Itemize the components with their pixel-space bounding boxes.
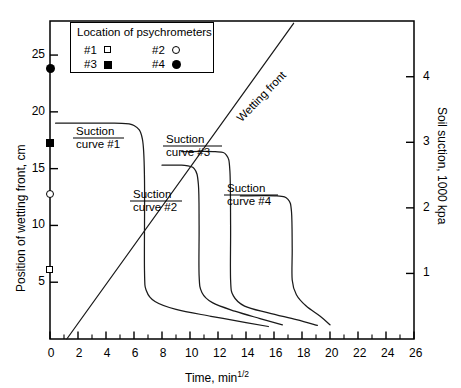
filled-circle-icon xyxy=(172,60,181,69)
y-tick-label-right: 4 xyxy=(423,69,430,83)
annotation-suction-curve-1-line1: Suction xyxy=(76,125,114,137)
annotation-suction-curve-1: Suction curve #1 xyxy=(76,125,120,151)
annotation-suction-curve-3-line2: curve #3 xyxy=(166,146,210,158)
annotation-suction-curve-2-line1: Suction xyxy=(133,188,171,200)
y-tick-label-left: 15 xyxy=(26,161,45,175)
psychrometer-marker-3 xyxy=(46,139,54,147)
x-tick-label: 14 xyxy=(241,346,253,360)
psychrometer-marker-2 xyxy=(46,190,54,198)
annotation-suction-curve-2-line2: curve #2 xyxy=(133,201,177,213)
x-tick-label: 8 xyxy=(157,346,169,360)
legend-item-4-label: #4 xyxy=(152,58,165,70)
annotation-suction-curve-4: Suction curve #4 xyxy=(227,182,271,208)
x-tick-label: 4 xyxy=(101,346,113,360)
x-tick-label: 18 xyxy=(297,346,309,360)
filled-square-icon xyxy=(104,61,112,69)
legend-item-1-label: #1 xyxy=(84,44,97,56)
y-tick-label-left: 5 xyxy=(26,274,45,288)
x-tick-label: 22 xyxy=(353,346,365,360)
x-tick-label: 2 xyxy=(73,346,85,360)
curve-suction-curve-3 xyxy=(182,151,318,325)
y-tick-label-left: 10 xyxy=(26,217,45,231)
x-tick-label: 16 xyxy=(269,346,281,360)
annotation-suction-curve-2: Suction curve #2 xyxy=(133,188,177,214)
x-tick-label: 6 xyxy=(129,346,141,360)
annotation-suction-curve-1-line2: curve #1 xyxy=(76,138,120,150)
y-axis-right-title: Soil suction, 1000 kpa xyxy=(435,107,449,224)
x-tick-label: 20 xyxy=(325,346,337,360)
psychrometer-marker-1 xyxy=(46,266,53,273)
curve-suction-curve-1 xyxy=(56,123,269,326)
annotation-suction-curve-3: Suction curve #3 xyxy=(166,133,210,159)
y-tick-label-right: 3 xyxy=(423,134,430,148)
x-tick-label: 10 xyxy=(185,346,197,360)
x-tick-label: 0 xyxy=(45,346,57,360)
x-axis-title-exponent: 1/2 xyxy=(237,369,249,379)
open-square-icon xyxy=(104,46,111,53)
annotation-suction-curve-4-line2: curve #4 xyxy=(227,195,271,207)
legend-item-2-label: #2 xyxy=(152,44,165,56)
x-axis-title-main: Time, min xyxy=(185,371,237,385)
y-tick-label-right: 2 xyxy=(423,200,430,214)
x-tick-label: 12 xyxy=(213,346,225,360)
psychrometer-marker-4 xyxy=(46,64,55,73)
x-tick-label: 24 xyxy=(381,346,393,360)
x-tick-label: 26 xyxy=(409,346,421,360)
legend-item-3-label: #3 xyxy=(84,58,97,70)
y-tick-label-left: 25 xyxy=(26,47,45,61)
y-tick-label-right: 1 xyxy=(423,265,430,279)
x-axis-title: Time, min1/2 xyxy=(185,369,249,385)
open-circle-icon xyxy=(172,46,180,54)
y-tick-label-left: 20 xyxy=(26,104,45,118)
annotation-suction-curve-4-line1: Suction xyxy=(227,182,265,194)
curve-suction-curve-4 xyxy=(240,196,330,325)
legend-title: Location of psychrometers xyxy=(77,26,212,38)
annotation-suction-curve-3-line1: Suction xyxy=(166,133,204,145)
